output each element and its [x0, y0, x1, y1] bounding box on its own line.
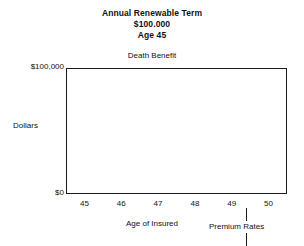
chart-title: Annual Renewable Term	[0, 8, 304, 19]
x-tick-label: 48	[176, 199, 213, 209]
death-benefit-label: Death Benefit	[0, 51, 304, 61]
x-axis-ticks: 454647484950	[66, 199, 287, 209]
x-tick-label: 49	[213, 199, 250, 209]
y-tick-label-max: $100,000	[31, 62, 64, 72]
plot-frame	[66, 68, 287, 194]
x-tick-label: 45	[66, 199, 103, 209]
chart-subtitle-age: Age 45	[0, 30, 304, 41]
chart-subtitle-amount: $100.000	[0, 19, 304, 30]
y-axis-title: Dollars	[13, 121, 38, 131]
y-tick-label-min: $0	[55, 188, 64, 198]
x-tick-label: 50	[250, 199, 287, 209]
x-tick-label: 46	[103, 199, 140, 209]
premium-rates-leader-line	[246, 233, 247, 246]
chart-title-block: Annual Renewable Term $100.000 Age 45	[0, 8, 304, 41]
x-axis-title: Age of Insured	[0, 219, 304, 229]
x-tick-label: 47	[140, 199, 177, 209]
plot-area: Premium Rates	[66, 68, 287, 194]
